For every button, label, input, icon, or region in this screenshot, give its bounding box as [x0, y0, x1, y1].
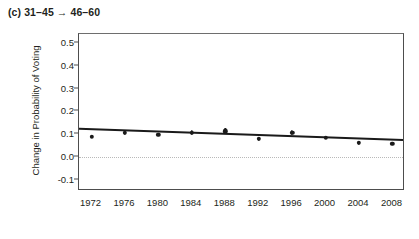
x-tick-label: 2004 [347, 197, 368, 208]
x-tick-label: 1984 [180, 197, 201, 208]
plot-area [78, 33, 404, 190]
panel-title: (c) 31–45 → 46–60 [8, 6, 100, 18]
x-tick-label: 1972 [80, 197, 101, 208]
y-tick-label: 0.5 [44, 37, 74, 48]
x-tick-label: 2000 [314, 197, 335, 208]
y-tick-label: 0.3 [44, 82, 74, 93]
x-tick-label: 1976 [113, 197, 134, 208]
y-tick-label: 0.1 [44, 128, 74, 139]
x-tick-label: 1992 [247, 197, 268, 208]
x-tick-label: 1996 [281, 197, 302, 208]
y-tick-label: 0.2 [44, 105, 74, 116]
y-tick-label: -0.1 [44, 173, 74, 184]
y-axis-title: Change in Probability of Voting [30, 31, 41, 191]
x-tick-label: 1980 [147, 197, 168, 208]
zero-reference-line [79, 157, 403, 158]
x-tick-label: 2008 [381, 197, 402, 208]
trend-line [79, 129, 403, 140]
y-tick-label: 0.4 [44, 59, 74, 70]
x-tick-label: 1988 [214, 197, 235, 208]
y-axis-tick-labels: 0.50.40.30.20.10.0-0.1 [42, 33, 74, 190]
trend-line-layer [79, 34, 403, 190]
figure-panel: (c) 31–45 → 46–60 Change in Probability … [0, 0, 419, 239]
plot-inner [79, 34, 403, 189]
x-axis-tick-labels: 1972197619801984198819921996200020042008 [0, 197, 419, 213]
y-tick-label: 0.0 [44, 150, 74, 161]
